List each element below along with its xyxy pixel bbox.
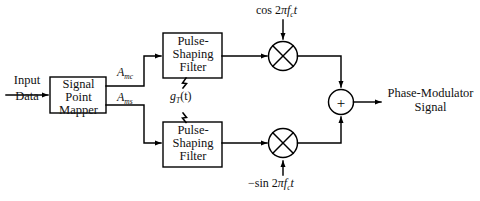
block-diagram-canvas: + Input Data Signal Point Mapper Pulse- …: [0, 0, 480, 201]
wire-mixer1-to-summer: [298, 56, 342, 87]
mapper-line3: Mapper: [51, 104, 106, 117]
gt-subscript: T: [176, 96, 180, 105]
gt-pointer-upper: [183, 78, 187, 88]
filter-upper-line2: Shaping: [164, 48, 222, 61]
cos-t: t: [294, 3, 297, 17]
pulse-shaping-filter-upper-label: Pulse- Shaping Filter: [164, 35, 222, 73]
filter-lower-line2: Shaping: [164, 137, 222, 150]
filter-upper-line3: Filter: [164, 61, 222, 74]
cos-carrier-label: cos 2πfct: [256, 4, 297, 17]
summer-plus-glyph: +: [337, 95, 345, 111]
mapper-line2: Point: [51, 91, 106, 104]
cos-subscript: c: [290, 10, 293, 19]
amplitude-ams-label: Ams: [117, 91, 133, 104]
pulse-shaping-filter-lower-label: Pulse- Shaping Filter: [164, 124, 222, 162]
sin-t: t: [290, 176, 293, 190]
ams-subscript: ms: [124, 97, 132, 106]
signal-point-mapper-label: Signal Point Mapper: [51, 78, 106, 116]
output-line1: Phase-Modulator: [383, 86, 478, 100]
amplitude-amc-label: Amc: [117, 66, 133, 79]
gt-argument: (t): [180, 89, 191, 103]
input-data-label: Input Data: [4, 74, 50, 103]
wire-amc-branch: [106, 56, 161, 86]
filter-upper-line1: Pulse-: [164, 35, 222, 48]
output-signal-label: Phase-Modulator Signal: [383, 86, 478, 115]
filter-lower-line3: Filter: [164, 150, 222, 163]
cos-prefix: cos: [256, 3, 275, 17]
wire-ams-branch: [106, 105, 161, 143]
pulse-shape-gt-label: gT(t): [170, 90, 192, 103]
gt-pointer-lower: [183, 113, 187, 123]
filter-lower-line1: Pulse-: [164, 124, 222, 137]
sin-carrier-label: −sin 2πfct: [248, 177, 294, 190]
output-line2: Signal: [383, 100, 478, 114]
sin-subscript: c: [287, 183, 290, 192]
sin-prefix: −sin: [248, 176, 272, 190]
input-data-line1: Input: [4, 74, 50, 87]
input-data-line2: Data: [4, 90, 50, 103]
mapper-line1: Signal: [51, 78, 106, 91]
wire-mixer2-to-summer: [298, 117, 342, 143]
amc-subscript: mc: [124, 72, 133, 81]
